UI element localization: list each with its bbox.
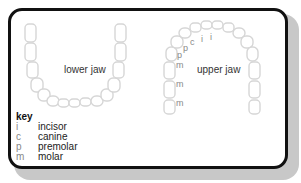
tooth-label-molar-2: m [176,80,184,89]
tooth-label-canine: c [190,38,195,47]
tooth-label-incisor-1: i [210,33,212,42]
tooth-label-premolar-1: p [183,44,188,53]
key-meaning: molar [38,151,63,162]
tooth-label-molar-1: m [176,61,184,70]
tooth-label-premolar-2: p [177,51,182,60]
tooth-label-molar-3: m [176,99,184,108]
upper-jaw-label: upper jaw [197,64,240,75]
key-row-molar: mmolar [16,152,63,162]
key-symbol: m [16,152,38,162]
tooth-label-incisor-2: i [201,35,203,44]
key-title: key [16,111,33,122]
lower-jaw-label: lower jaw [64,64,106,75]
